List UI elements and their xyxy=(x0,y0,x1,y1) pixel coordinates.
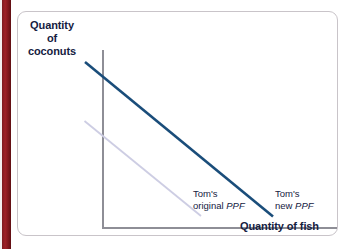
y-axis-title-line1: Quantity xyxy=(22,19,82,32)
new-ppf-label: Tom's new PPF xyxy=(275,188,314,211)
original-ppf-label: Tom's original PPF xyxy=(193,188,245,211)
new-ppf-label-line2: new PPF xyxy=(275,200,314,212)
figure-page: Quantity of coconuts Quantity of fish To… xyxy=(0,0,354,249)
new-ppf-label-abbrev: PPF xyxy=(295,200,313,211)
margin-spine-bar xyxy=(2,0,11,249)
original-ppf-label-line1: Tom's xyxy=(193,188,245,200)
x-axis-title: Quantity of fish xyxy=(199,220,319,232)
new-ppf-label-line1: Tom's xyxy=(275,188,314,200)
new-ppf-label-prefix: new xyxy=(275,200,295,211)
original-ppf-label-prefix: original xyxy=(193,200,226,211)
y-axis-line xyxy=(102,50,104,229)
y-axis-title-line2: of coconuts xyxy=(22,32,82,58)
original-ppf-label-abbrev: PPF xyxy=(226,200,244,211)
y-axis-title: Quantity of coconuts xyxy=(22,19,82,58)
original-ppf-label-line2: original PPF xyxy=(193,200,245,212)
